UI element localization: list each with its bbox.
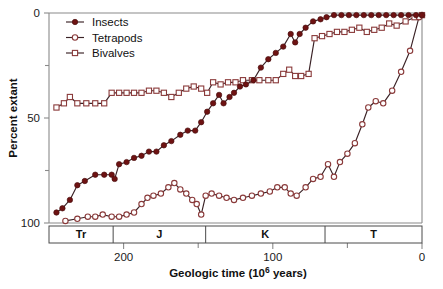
legend-marker-bivalves — [72, 50, 77, 55]
data-point-tetrapods — [337, 159, 342, 164]
data-point-insects — [210, 101, 215, 106]
data-point-bivalves — [218, 82, 223, 87]
data-point-tetrapods — [249, 193, 254, 198]
data-point-insects — [60, 206, 65, 211]
data-point-insects — [391, 12, 396, 17]
data-point-bivalves — [257, 78, 262, 83]
data-point-bivalves — [233, 80, 238, 85]
data-point-insects — [75, 183, 80, 188]
data-point-insects — [273, 50, 278, 55]
data-point-tetrapods — [194, 201, 199, 206]
data-point-tetrapods — [224, 195, 229, 200]
data-point-tetrapods — [325, 162, 330, 167]
data-point-bivalves — [319, 34, 324, 39]
data-point-tetrapods — [398, 69, 403, 74]
data-point-bivalves — [93, 101, 98, 106]
data-point-insects — [310, 19, 315, 24]
data-point-insects — [54, 210, 59, 215]
data-point-tetrapods — [216, 193, 221, 198]
data-point-bivalves — [225, 80, 230, 85]
data-point-insects — [369, 12, 374, 17]
data-point-bivalves — [342, 29, 347, 34]
data-point-tetrapods — [373, 99, 378, 104]
data-point-tetrapods — [178, 187, 183, 192]
data-point-bivalves — [131, 90, 136, 95]
data-point-bivalves — [161, 90, 166, 95]
data-point-insects — [67, 197, 72, 202]
data-point-tetrapods — [166, 185, 171, 190]
data-point-tetrapods — [190, 197, 195, 202]
data-point-insects — [82, 178, 87, 183]
data-point-bivalves — [287, 67, 292, 72]
data-point-insects — [185, 128, 190, 133]
data-point-tetrapods — [407, 48, 412, 53]
y-tick-label: 100 — [21, 217, 40, 229]
data-point-tetrapods — [231, 197, 236, 202]
x-tick-label: 0 — [419, 251, 425, 263]
data-point-insects — [93, 172, 98, 177]
data-point-insects — [178, 132, 183, 137]
data-point-insects — [112, 176, 117, 181]
data-point-bivalves — [54, 105, 59, 110]
data-point-insects — [251, 78, 256, 83]
y-tick-label: 0 — [34, 7, 40, 19]
data-point-bivalves — [102, 101, 107, 106]
data-point-insects — [221, 101, 226, 106]
data-point-bivalves — [75, 101, 80, 106]
data-point-insects — [288, 31, 293, 36]
period-label-tr: Tr — [76, 228, 87, 240]
data-point-bivalves — [154, 88, 159, 93]
data-point-tetrapods — [93, 214, 98, 219]
data-point-tetrapods — [203, 193, 208, 198]
data-point-bivalves — [306, 71, 311, 76]
data-point-bivalves — [205, 90, 210, 95]
data-point-insects — [243, 82, 248, 87]
data-point-insects — [383, 12, 388, 17]
data-point-bivalves — [184, 86, 189, 91]
data-point-tetrapods — [209, 191, 214, 196]
data-point-tetrapods — [131, 210, 136, 215]
chart-background — [0, 0, 443, 289]
data-point-bivalves — [139, 90, 144, 95]
data-point-bivalves — [281, 71, 286, 76]
data-point-tetrapods — [275, 185, 280, 190]
data-point-insects — [139, 153, 144, 158]
data-point-tetrapods — [294, 193, 299, 198]
data-point-insects — [231, 90, 236, 95]
data-point-insects — [354, 12, 359, 17]
data-point-bivalves — [364, 29, 369, 34]
data-point-insects — [193, 128, 198, 133]
period-label-k: K — [261, 228, 269, 240]
data-point-tetrapods — [109, 214, 114, 219]
data-point-insects — [292, 40, 297, 45]
data-point-tetrapods — [139, 201, 144, 206]
data-point-tetrapods — [389, 88, 394, 93]
data-point-bivalves — [124, 90, 129, 95]
data-point-bivalves — [117, 90, 122, 95]
chart-figure: 1005002001000 TrJKT InsectsTetrapodsBiva… — [0, 0, 443, 289]
data-point-bivalves — [211, 80, 216, 85]
data-point-insects — [258, 65, 263, 70]
data-point-bivalves — [176, 90, 181, 95]
data-point-bivalves — [349, 27, 354, 32]
data-point-tetrapods — [124, 212, 129, 217]
data-point-tetrapods — [100, 212, 105, 217]
data-point-tetrapods — [151, 193, 156, 198]
data-point-insects — [146, 149, 151, 154]
x-tick-label: 200 — [114, 251, 133, 263]
data-point-insects — [227, 94, 232, 99]
data-point-insects — [266, 57, 271, 62]
percent-extant-line-chart: 1005002001000 TrJKT InsectsTetrapodsBiva… — [0, 0, 443, 289]
data-point-tetrapods — [381, 101, 386, 106]
data-point-insects — [331, 12, 336, 17]
data-point-insects — [131, 155, 136, 160]
data-point-insects — [198, 120, 203, 125]
data-point-bivalves — [312, 36, 317, 41]
legend-marker-insects — [72, 19, 77, 24]
data-point-tetrapods — [366, 105, 371, 110]
x-axis-title: Geologic time (106 years) — [169, 265, 307, 279]
data-point-insects — [413, 12, 418, 17]
x-axis-title-main: Geologic time (10 — [169, 267, 265, 279]
data-point-tetrapods — [310, 176, 315, 181]
data-point-tetrapods — [172, 180, 177, 185]
